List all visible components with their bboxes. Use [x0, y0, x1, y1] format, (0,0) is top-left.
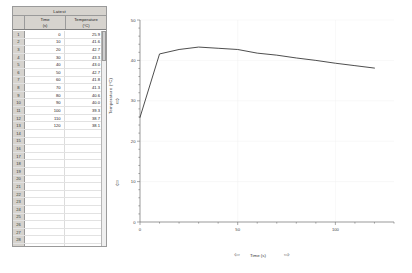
- table-cell-temperature[interactable]: [65, 221, 107, 228]
- table-cell-temperature[interactable]: [65, 168, 107, 175]
- table-row[interactable]: 98040.6: [13, 92, 106, 100]
- table-row[interactable]: 65042.7: [13, 69, 106, 77]
- table-row[interactable]: 22: [13, 191, 106, 199]
- table-cell-time[interactable]: [25, 160, 65, 167]
- table-cell-temperature[interactable]: 40.6: [65, 92, 107, 99]
- table-cell-temperature[interactable]: 42.7: [65, 46, 107, 53]
- table-cell-temperature[interactable]: [65, 244, 107, 246]
- table-row[interactable]: 1110039.3: [13, 107, 106, 115]
- table-cell-time[interactable]: 110: [25, 115, 65, 122]
- table-row-number: 17: [13, 153, 25, 160]
- table-cell-temperature[interactable]: [65, 183, 107, 190]
- table-cell-temperature[interactable]: [65, 138, 107, 145]
- table-cell-temperature[interactable]: 41.6: [65, 39, 107, 46]
- table-row[interactable]: 14: [13, 130, 106, 138]
- table-row[interactable]: 21041.6: [13, 39, 106, 47]
- table-cell-temperature[interactable]: [65, 236, 107, 243]
- table-cell-temperature[interactable]: [65, 153, 107, 160]
- table-vertical-scrollbar[interactable]: [101, 31, 106, 246]
- table-cell-time[interactable]: [25, 176, 65, 183]
- table-cell-time[interactable]: 100: [25, 107, 65, 114]
- table-cell-temperature[interactable]: 41.8: [65, 77, 107, 84]
- table-cell-time[interactable]: [25, 198, 65, 205]
- table-cell-time[interactable]: [25, 130, 65, 137]
- table-row[interactable]: 1025.9: [13, 31, 106, 39]
- table-row[interactable]: 87041.3: [13, 84, 106, 92]
- table-row[interactable]: 19: [13, 168, 106, 176]
- table-cell-temperature[interactable]: 39.3: [65, 107, 107, 114]
- table-cell-time[interactable]: 120: [25, 122, 65, 129]
- table-cell-temperature[interactable]: [65, 130, 107, 137]
- table-cell-time[interactable]: [25, 191, 65, 198]
- table-row[interactable]: 27: [13, 229, 106, 237]
- table-row[interactable]: 23: [13, 198, 106, 206]
- table-row[interactable]: 76041.8: [13, 77, 106, 85]
- table-row[interactable]: 1312038.1: [13, 122, 106, 130]
- table-row[interactable]: 16: [13, 145, 106, 153]
- table-cell-temperature[interactable]: 38.7: [65, 115, 107, 122]
- table-cell-temperature[interactable]: [65, 229, 107, 236]
- table-row[interactable]: 28: [13, 236, 106, 244]
- table-cell-time[interactable]: [25, 229, 65, 236]
- table-cell-time[interactable]: 70: [25, 84, 65, 91]
- table-row[interactable]: 17: [13, 153, 106, 161]
- table-cell-time[interactable]: [25, 153, 65, 160]
- table-cell-time[interactable]: 0: [25, 31, 65, 38]
- table-cell-temperature[interactable]: 25.9: [65, 31, 107, 38]
- table-row[interactable]: 32042.7: [13, 46, 106, 54]
- table-cell-temperature[interactable]: [65, 160, 107, 167]
- table-cell-time[interactable]: 50: [25, 69, 65, 76]
- table-cell-temperature[interactable]: 38.1: [65, 122, 107, 129]
- table-row[interactable]: 24: [13, 206, 106, 214]
- table-cell-temperature[interactable]: [65, 145, 107, 152]
- table-cell-temperature[interactable]: 40.0: [65, 99, 107, 106]
- table-cell-time[interactable]: [25, 183, 65, 190]
- table-cell-temperature[interactable]: [65, 214, 107, 221]
- table-cell-time[interactable]: [25, 221, 65, 228]
- table-cell-temperature[interactable]: 43.3: [65, 54, 107, 61]
- table-cell-time[interactable]: [25, 206, 65, 213]
- table-row[interactable]: 26: [13, 221, 106, 229]
- table-row[interactable]: 25: [13, 214, 106, 222]
- table-cell-temperature[interactable]: [65, 176, 107, 183]
- table-cell-temperature[interactable]: [65, 198, 107, 205]
- table-rows-container[interactable]: 1025.921041.632042.743043.354043.065042.…: [13, 31, 106, 246]
- table-row[interactable]: 43043.3: [13, 54, 106, 62]
- table-cell-time[interactable]: 20: [25, 46, 65, 53]
- table-cell-time[interactable]: 90: [25, 99, 65, 106]
- plot-area[interactable]: 01020304050050100: [130, 14, 398, 240]
- table-cell-time[interactable]: 40: [25, 61, 65, 68]
- table-cell-time[interactable]: 30: [25, 54, 65, 61]
- table-cell-temperature[interactable]: [65, 206, 107, 213]
- svg-text:20: 20: [131, 139, 136, 144]
- column-header-time[interactable]: Time (s): [25, 16, 66, 29]
- table-cell-temperature[interactable]: 41.3: [65, 84, 107, 91]
- table-row[interactable]: 20: [13, 176, 106, 184]
- table-row-number: 26: [13, 221, 25, 228]
- table-cell-temperature[interactable]: 42.7: [65, 69, 107, 76]
- table-row[interactable]: 1211038.7: [13, 115, 106, 123]
- table-row[interactable]: 18: [13, 160, 106, 168]
- table-row[interactable]: 54043.0: [13, 61, 106, 69]
- table-cell-time[interactable]: 10: [25, 39, 65, 46]
- table-row[interactable]: 109040.0: [13, 99, 106, 107]
- table-cell-time[interactable]: [25, 145, 65, 152]
- table-scrollbar-thumb[interactable]: [102, 31, 106, 61]
- table-cell-temperature[interactable]: [65, 191, 107, 198]
- table-row[interactable]: 15: [13, 138, 106, 146]
- table-cell-temperature[interactable]: 43.0: [65, 61, 107, 68]
- column-header-temperature[interactable]: Temperature (°C): [66, 16, 106, 29]
- table-row[interactable]: 21: [13, 183, 106, 191]
- x-axis-scroll-left-icon[interactable]: ⇦: [234, 251, 240, 258]
- y-axis-scroll-down-icon[interactable]: ⇩: [114, 180, 121, 188]
- table-cell-time[interactable]: [25, 236, 65, 243]
- table-cell-time[interactable]: [25, 214, 65, 221]
- table-cell-time[interactable]: [25, 138, 65, 145]
- table-cell-time[interactable]: 60: [25, 77, 65, 84]
- table-row[interactable]: 29: [13, 244, 106, 246]
- table-cell-time[interactable]: [25, 244, 65, 246]
- y-axis-scroll-up-icon[interactable]: ⇧: [114, 98, 121, 106]
- table-cell-time[interactable]: [25, 168, 65, 175]
- x-axis-scroll-right-icon[interactable]: ⇨: [284, 251, 290, 258]
- table-cell-time[interactable]: 80: [25, 92, 65, 99]
